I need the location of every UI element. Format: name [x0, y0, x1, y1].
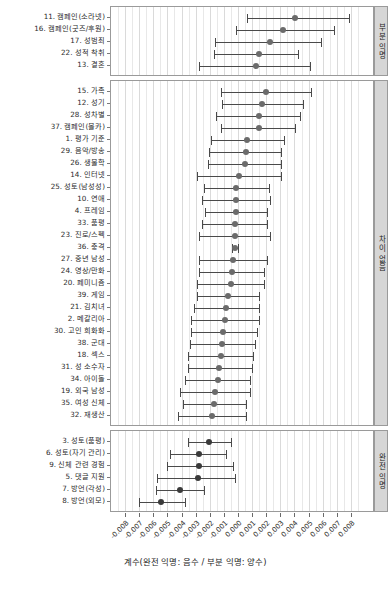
y-axis-tick-mark	[107, 271, 110, 272]
estimate-point-marker	[229, 269, 235, 275]
gridline-vertical	[309, 431, 310, 511]
y-axis-tick-label: 7. 방언(각성)	[62, 485, 105, 493]
gridline-vertical	[217, 431, 218, 511]
y-axis-tick-label: 3. 성토(품평)	[62, 437, 105, 445]
confidence-interval-cap	[209, 148, 210, 157]
confidence-interval-cap	[139, 498, 140, 507]
gridline-vertical	[231, 81, 232, 425]
y-axis-tick-mark	[107, 379, 110, 380]
gridline-vertical	[167, 431, 168, 511]
estimate-point-marker	[256, 51, 262, 57]
confidence-interval-cap	[281, 172, 282, 181]
gridline-vertical	[323, 81, 324, 425]
gridline-vertical	[160, 7, 161, 75]
confidence-interval-cap	[180, 388, 181, 397]
confidence-interval-cap	[214, 50, 215, 59]
facet-strip-label: 완전 익명	[374, 430, 388, 512]
y-axis-tick-label: 14. 인터넷	[70, 171, 105, 179]
gridline-vertical	[189, 7, 190, 75]
y-axis-tick-label: 2. 메갈리아	[68, 315, 105, 323]
gridline-vertical	[245, 7, 246, 75]
estimate-point-marker	[211, 401, 217, 407]
confidence-interval-cap	[246, 412, 247, 421]
confidence-interval-cap	[221, 88, 222, 97]
x-axis-tick-mark	[294, 513, 295, 517]
estimate-point-marker	[232, 221, 238, 227]
confidence-interval-cap	[284, 136, 285, 145]
estimate-point-marker	[223, 305, 229, 311]
gridline-vertical	[351, 7, 352, 75]
gridline-vertical	[153, 81, 154, 425]
gridline-vertical	[182, 81, 183, 425]
confidence-interval-cap	[250, 388, 251, 397]
gridline-vertical	[189, 81, 190, 425]
gridline-vertical	[132, 7, 133, 75]
gridline-vertical	[217, 7, 218, 75]
gridline-vertical	[210, 7, 211, 75]
confidence-interval-cap	[269, 184, 270, 193]
estimate-point-marker	[232, 233, 238, 239]
y-axis-tick-mark	[107, 151, 110, 152]
gridline-vertical	[224, 7, 225, 75]
y-axis-tick-label: 37. 캠페인(몰카)	[51, 123, 105, 131]
y-axis-tick-mark	[107, 211, 110, 212]
confidence-interval-cap	[170, 450, 171, 459]
confidence-interval-cap	[226, 450, 227, 459]
gridline-vertical	[358, 431, 359, 511]
gridline-vertical	[245, 431, 246, 511]
estimate-point-marker	[242, 161, 248, 167]
estimate-point-marker	[218, 353, 224, 359]
gridline-vertical	[358, 7, 359, 75]
gridline-vertical	[217, 81, 218, 425]
gridline-vertical	[337, 431, 338, 511]
y-axis-tick-label: 8. 방언(외모)	[62, 497, 105, 505]
confidence-interval-cap	[156, 486, 157, 495]
y-axis-tick-label: 36. 충격	[77, 243, 105, 251]
gridline-vertical	[196, 81, 197, 425]
confidence-interval-cap	[185, 376, 186, 385]
confidence-interval-cap	[183, 400, 184, 409]
gridline-vertical	[196, 7, 197, 75]
estimate-point-marker	[196, 451, 202, 457]
estimate-point-marker	[195, 475, 201, 481]
confidence-interval-cap	[311, 88, 312, 97]
gridline-vertical	[302, 431, 303, 511]
confidence-interval-cap	[202, 196, 203, 205]
confidence-interval-cap	[310, 62, 311, 71]
gridline-vertical	[337, 81, 338, 425]
gridline-vertical	[330, 431, 331, 511]
confidence-interval-cap	[204, 486, 205, 495]
confidence-interval-cap	[259, 316, 260, 325]
y-axis-tick-mark	[107, 53, 110, 54]
gridline-vertical	[210, 81, 211, 425]
confidence-interval-cap	[216, 112, 217, 121]
confidence-interval-cap	[246, 400, 247, 409]
confidence-interval-cap	[281, 148, 282, 157]
facet-panel	[110, 6, 374, 76]
y-axis-tick-mark	[107, 415, 110, 416]
x-axis-tick-mark	[337, 513, 338, 517]
y-axis-tick-mark	[107, 295, 110, 296]
y-axis-tick-mark	[107, 127, 110, 128]
confidence-interval-cap	[211, 136, 212, 145]
gridline-vertical	[323, 431, 324, 511]
gridline-vertical	[153, 7, 154, 75]
panel-inner	[111, 7, 373, 75]
confidence-interval-cap	[215, 38, 216, 47]
estimate-point-marker	[228, 281, 234, 287]
facet-panel	[110, 430, 374, 512]
confidence-interval-cap	[270, 232, 271, 241]
estimate-point-marker	[259, 101, 265, 107]
confidence-interval-cap	[267, 208, 268, 217]
x-axis-tick-mark	[167, 513, 168, 517]
confidence-interval-cap	[199, 232, 200, 241]
gridline-vertical	[344, 431, 345, 511]
y-axis-tick-label: 17. 성범죄	[70, 37, 105, 45]
forest-plot-figure: 부분 익명11. 캠페인(소라넷)16. 캠페인(굿즈/후원)17. 성범죄22…	[0, 0, 390, 607]
gridline-vertical	[266, 431, 267, 511]
estimate-point-marker	[256, 113, 262, 119]
y-axis-tick-label: 28. 성차별	[70, 111, 105, 119]
confidence-interval-cap	[298, 50, 299, 59]
y-axis-tick-mark	[107, 465, 110, 466]
confidence-interval-cap	[194, 304, 195, 313]
